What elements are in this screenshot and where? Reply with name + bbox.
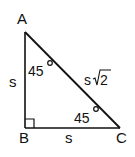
angle-label-c: 45: [74, 110, 90, 126]
right-angle-marker: [25, 119, 34, 128]
degree-symbol-c: [94, 107, 99, 112]
degree-symbol-a: [48, 61, 53, 66]
triangle-diagram: A B C s s s 2 45 45: [0, 0, 135, 157]
vertex-label-a: A: [17, 10, 27, 27]
side-label-ac-radicand: 2: [100, 72, 108, 88]
vertex-label-b: B: [19, 129, 29, 146]
side-label-bc: s: [65, 129, 73, 146]
vertex-label-c: C: [116, 129, 127, 146]
side-label-ac: s 2: [84, 70, 111, 88]
side-label-ac-prefix: s: [84, 72, 91, 88]
side-label-ab: s: [9, 73, 17, 90]
angle-label-a: 45: [28, 63, 44, 79]
